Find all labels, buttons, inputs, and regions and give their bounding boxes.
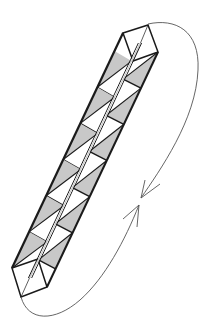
folded-strip-diagram xyxy=(0,0,210,333)
shaded-triangle xyxy=(106,88,141,124)
middle-center-line xyxy=(30,43,140,278)
middle-edge-b xyxy=(32,43,142,278)
shaded-triangle xyxy=(89,124,124,160)
shaded-triangle xyxy=(72,160,106,196)
shaded-triangle xyxy=(55,197,89,233)
